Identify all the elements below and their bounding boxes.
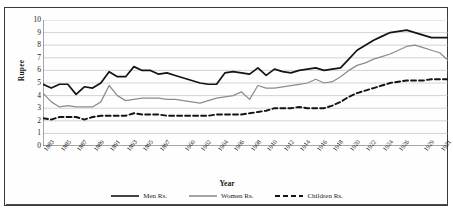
series-canvas — [43, 20, 448, 146]
series-line-children-rs — [43, 79, 448, 119]
legend-line-swatch — [111, 192, 139, 200]
y-tick-label: 8 — [29, 41, 41, 49]
chart-figure: Rupee 109876543210 188318851887188918911… — [0, 0, 453, 211]
chart-legend: Men Rs.Women Rs.Children Rs. — [5, 192, 449, 200]
series-line-women-rs — [43, 45, 448, 107]
legend-item[interactable]: Women Rs. — [189, 192, 254, 200]
y-axis-tick-labels: 109876543210 — [23, 20, 41, 146]
legend-line-swatch — [189, 192, 217, 200]
legend-item[interactable]: Men Rs. — [111, 192, 167, 200]
y-tick-label: 1 — [29, 129, 41, 137]
legend-label: Men Rs. — [143, 192, 167, 200]
legend-label: Women Rs. — [221, 192, 254, 200]
y-tick-label: 0 — [29, 142, 41, 150]
y-tick-label: 7 — [29, 54, 41, 62]
legend-divider — [6, 204, 448, 205]
y-tick-label: 10 — [29, 16, 41, 24]
legend-line-swatch — [275, 192, 303, 200]
y-tick-label: 5 — [29, 79, 41, 87]
y-tick-label: 4 — [29, 92, 41, 100]
chart-border: Rupee 109876543210 188318851887188918911… — [4, 7, 448, 206]
plot-area — [43, 20, 448, 146]
legend-label: Children Rs. — [307, 192, 342, 200]
y-tick-label: 2 — [29, 117, 41, 125]
legend-item[interactable]: Children Rs. — [275, 192, 342, 200]
x-axis-title: Year — [5, 179, 449, 188]
y-tick-label: 6 — [29, 66, 41, 74]
y-tick-label: 9 — [29, 29, 41, 37]
y-tick-label: 3 — [29, 104, 41, 112]
